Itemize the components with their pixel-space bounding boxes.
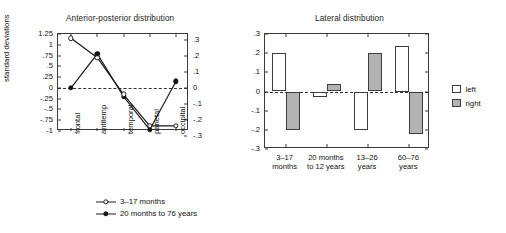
y-axis-tick-right <box>425 34 428 35</box>
y-axis-tick <box>265 72 268 73</box>
legend-label: 3–17 months <box>120 196 165 208</box>
secondary-y-axis-tick-label: -.3 <box>193 130 202 139</box>
secondary-y-axis-tick <box>184 135 187 136</box>
bar-right <box>286 92 300 130</box>
legend-item-left: left <box>452 83 481 95</box>
y-axis-tick-label: .75 <box>0 50 53 59</box>
x-axis-tick-top <box>175 34 176 37</box>
x-axis-tick-top <box>97 34 98 37</box>
bar-right <box>327 84 341 92</box>
x-axis-tick <box>97 128 98 131</box>
secondary-y-axis-tick-label: -.2 <box>193 114 202 123</box>
y-axis-tick <box>58 44 61 45</box>
y-axis-tick-right <box>425 91 428 92</box>
secondary-y-axis-tick-label: .2 <box>193 50 199 59</box>
legend-label: 20 months to 76 years <box>120 208 197 220</box>
filled-circle-icon <box>96 208 116 220</box>
secondary-y-axis-tick-label: .1 <box>193 66 199 75</box>
legend-label: right <box>466 99 481 108</box>
y-axis-tick <box>265 149 268 150</box>
x-axis-tick-top <box>326 34 327 37</box>
x-axis-tick-top <box>409 34 410 37</box>
y-axis-tick <box>58 66 61 67</box>
x-axis-category-label: occipital <box>178 107 187 134</box>
chart-title-anterior-posterior: Anterior-posterior distribution <box>66 14 174 23</box>
y-axis-tick-label: 1 <box>0 39 53 48</box>
x-axis-category-label: antitemp <box>99 105 108 134</box>
y-axis-tick-label: 1.25 <box>0 29 53 38</box>
bar-left <box>272 53 286 91</box>
y-axis-tick-label: -.3 <box>242 144 260 153</box>
x-axis-tick-top <box>149 34 150 37</box>
secondary-y-axis-tick <box>184 71 187 72</box>
legend-item-right: right <box>452 97 481 109</box>
y-axis-tick-label: -1 <box>0 126 53 135</box>
x-axis-tick <box>285 144 286 147</box>
y-axis-tick <box>58 34 61 35</box>
open-circle-icon <box>96 196 116 208</box>
y-axis-tick-label: .25 <box>0 72 53 81</box>
y-axis-tick-label: -.75 <box>0 115 53 124</box>
y-axis-tick-right <box>425 149 428 150</box>
secondary-y-axis-tick-label: .3 <box>193 35 199 44</box>
secondary-y-axis-tick-label: -.1 <box>193 98 202 107</box>
secondary-y-axis-tick <box>184 40 187 41</box>
y-axis-tick <box>58 109 61 110</box>
chart-title-lateral: Lateral distribution <box>315 14 384 23</box>
swatch-right-icon <box>452 99 461 108</box>
y-axis-tick-label: -.5 <box>0 104 53 113</box>
y-axis-tick-right <box>425 110 428 111</box>
bar-right <box>368 53 382 91</box>
secondary-y-axis-tick-label: 0 <box>193 82 197 91</box>
x-axis-tick-top <box>123 34 124 37</box>
bar-left <box>313 92 327 98</box>
y-axis-tick-label: -.25 <box>0 93 53 102</box>
y-axis-tick <box>58 55 61 56</box>
x-axis-tick <box>368 144 369 147</box>
y-axis-tick <box>265 53 268 54</box>
bar-left <box>354 92 368 130</box>
y-axis-tick-right <box>425 129 428 130</box>
secondary-y-axis-tick <box>184 103 187 104</box>
swatch-left-icon <box>452 85 461 94</box>
x-axis-tick <box>326 144 327 147</box>
x-axis-tick <box>71 128 72 131</box>
anterior-posterior-chart-panel: Anterior-posterior distribution standard… <box>0 0 253 233</box>
x-axis-tick-top <box>285 34 286 37</box>
x-axis-tick <box>123 128 124 131</box>
legend-lateral: left right <box>452 83 481 111</box>
y-axis-tick <box>265 129 268 130</box>
y-axis-tick-right <box>425 72 428 73</box>
y-axis-tick <box>58 120 61 121</box>
legend-item-3-17-months: 3–17 months <box>96 196 197 208</box>
legend-item-20-months-to-76-years: 20 months to 76 years <box>96 208 197 220</box>
x-axis-tick <box>409 144 410 147</box>
x-axis-tick <box>175 128 176 131</box>
y-axis-tick <box>58 131 61 132</box>
y-axis-tick <box>58 77 61 78</box>
y-axis-tick-label: .2 <box>242 48 260 57</box>
x-axis-category-label: 60–76 years <box>381 153 436 172</box>
x-axis-category-label: parietal <box>152 109 161 134</box>
y-axis-tick-label: -.1 <box>242 105 260 114</box>
y-axis-tick <box>265 110 268 111</box>
y-axis-tick-label: -.2 <box>242 124 260 133</box>
y-axis-tick <box>58 98 61 99</box>
x-axis-category-label: frontal <box>73 113 82 134</box>
y-axis-tick-label: .5 <box>0 61 53 70</box>
legend-label: left <box>466 85 476 94</box>
x-axis-tick-top <box>368 34 369 37</box>
y-axis-tick-label: 0 <box>242 86 260 95</box>
lateral-plot-area <box>264 33 429 148</box>
secondary-y-axis-tick <box>184 87 187 88</box>
y-axis-tick-right <box>425 53 428 54</box>
y-axis-tick <box>265 91 268 92</box>
secondary-y-axis-tick <box>184 55 187 56</box>
y-axis-tick <box>58 87 61 88</box>
bar-right <box>409 92 423 134</box>
y-axis-tick <box>265 34 268 35</box>
y-axis-tick-label: .1 <box>242 67 260 76</box>
y-axis-tick-label: .3 <box>242 29 260 38</box>
bar-left <box>395 46 409 92</box>
x-axis-category-label: temporal <box>126 104 135 134</box>
